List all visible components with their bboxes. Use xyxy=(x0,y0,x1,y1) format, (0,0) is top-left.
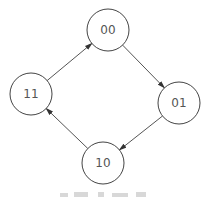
state-node-11: 11 xyxy=(10,73,52,115)
edges xyxy=(46,43,164,150)
edge-01-to-10 xyxy=(120,116,163,150)
state-diagram: 00011011 xyxy=(0,0,210,197)
state-label: 10 xyxy=(95,156,110,170)
nodes: 00011011 xyxy=(10,9,200,184)
caption-fragment xyxy=(60,192,146,197)
state-node-01: 01 xyxy=(158,82,200,124)
edge-11-to-00 xyxy=(47,43,92,80)
state-label: 00 xyxy=(100,23,115,37)
state-node-00: 00 xyxy=(87,9,129,51)
state-label: 01 xyxy=(171,96,186,110)
edge-00-to-01 xyxy=(123,45,165,88)
state-label: 11 xyxy=(23,87,38,101)
state-node-10: 10 xyxy=(82,142,124,184)
edge-10-to-11 xyxy=(46,109,88,149)
